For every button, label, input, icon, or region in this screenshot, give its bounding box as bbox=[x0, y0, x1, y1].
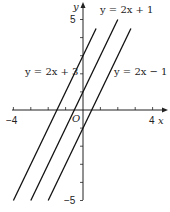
y-max-label: 5 bbox=[70, 14, 76, 25]
origin-label: O bbox=[72, 113, 80, 124]
y-axis: y 5 −5 O bbox=[64, 1, 86, 206]
line-graph: −4 4 x y 5 −5 O y = 2x + 3 y = 2x + bbox=[0, 0, 170, 212]
x-max-label: 4 bbox=[149, 115, 155, 126]
y-axis-label: y bbox=[72, 1, 79, 12]
y-axis-arrow-icon bbox=[81, 2, 86, 8]
x-axis-arrow-icon bbox=[162, 108, 168, 113]
label-line-2x-plus-3: y = 2x + 3 bbox=[24, 66, 79, 77]
x-min-label: −4 bbox=[6, 115, 18, 126]
x-axis: −4 4 x bbox=[6, 107, 168, 126]
label-line-2x-plus-1: y = 2x + 1 bbox=[99, 4, 154, 15]
y-min-label: −5 bbox=[64, 195, 76, 206]
x-axis-label: x bbox=[158, 115, 164, 126]
line-y-2x-minus-1 bbox=[48, 29, 131, 201]
label-line-2x-minus-1: y = 2x − 1 bbox=[113, 66, 168, 77]
line-y-2x-plus-3 bbox=[13, 29, 96, 201]
